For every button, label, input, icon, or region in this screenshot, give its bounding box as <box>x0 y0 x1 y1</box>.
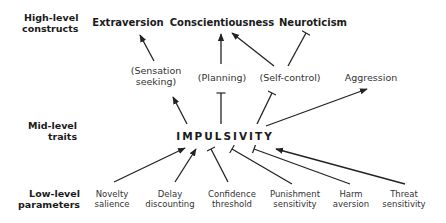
node-line: sensitivity <box>270 199 320 209</box>
edge-confidence-inhibits-impulsivity <box>211 149 228 182</box>
node-self-control: (Self-control) <box>259 72 320 83</box>
node-line: Punishment <box>270 189 320 199</box>
node-harm-aversion: Harm aversion <box>333 189 369 209</box>
node-line: seeking) <box>131 76 182 87</box>
edge-sensation-to-extraversion <box>140 35 154 61</box>
edge-punishment-inhibits-impulsivity <box>232 149 292 184</box>
edge-harm-inhibits-impulsivity <box>254 149 350 184</box>
node-line: Harm <box>333 189 369 199</box>
node-extraversion: Extraversion <box>92 17 163 28</box>
edge-novelty-to-impulsivity <box>114 148 185 182</box>
edge-impulsivity-to-sensation <box>173 97 187 124</box>
node-planning: (Planning) <box>198 72 246 83</box>
node-punishment-sensitivity: Punishment sensitivity <box>270 189 320 209</box>
node-line: (Sensation <box>131 65 182 76</box>
edge-selfcontrol-to-conscientiousness <box>232 33 274 66</box>
node-line: aversion <box>333 199 369 209</box>
node-line: discounting <box>145 199 194 209</box>
edge-threat-to-impulsivity <box>276 149 405 184</box>
node-neuroticism: Neuroticism <box>279 17 347 28</box>
node-line: Novelty <box>95 189 130 199</box>
edge-impulsivity-inhibits-selfcontrol <box>257 93 272 124</box>
node-confidence-threshold: Confidence threshold <box>208 189 256 209</box>
node-novelty-salience: Novelty salience <box>95 189 130 209</box>
node-impulsivity: IMPULSIVITY <box>176 130 274 142</box>
node-line: Threat <box>382 189 425 199</box>
node-line: Confidence <box>208 189 256 199</box>
node-line: Delay <box>145 189 194 199</box>
node-conscientiousness: Conscientiousness <box>170 17 275 28</box>
node-delay-discounting: Delay discounting <box>145 189 194 209</box>
node-line: salience <box>95 199 130 209</box>
node-aggression: Aggression <box>345 72 397 83</box>
edge-impulsivity-to-aggression <box>266 89 367 126</box>
node-line: sensitivity <box>382 199 425 209</box>
edge-selfcontrol-inhibits-neuroticism <box>288 33 306 66</box>
node-sensation-seeking: (Sensation seeking) <box>131 65 182 87</box>
node-line: threshold <box>208 199 256 209</box>
node-threat-sensitivity: Threat sensitivity <box>382 189 425 209</box>
edge-delay-to-impulsivity <box>175 149 196 182</box>
